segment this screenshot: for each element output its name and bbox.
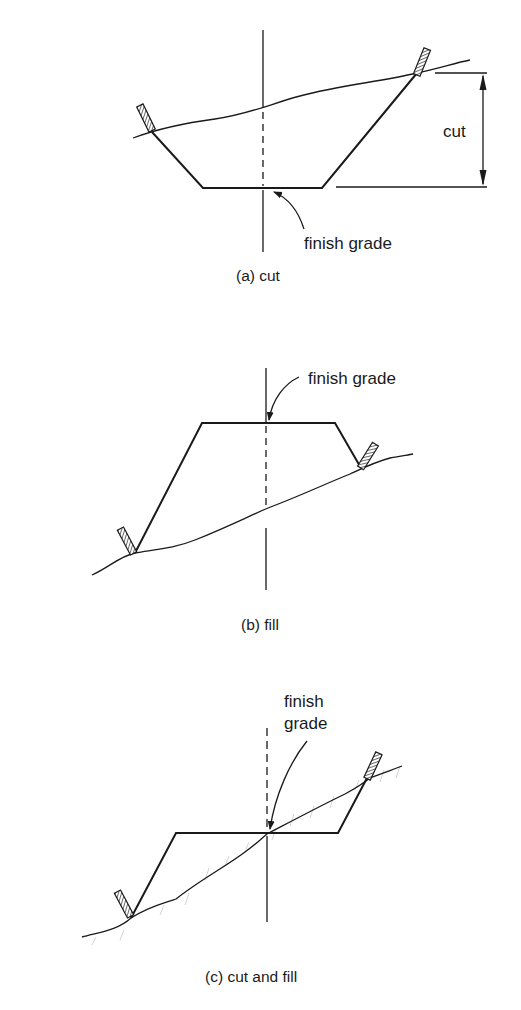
earthwork-cross-sections-figure: cut finish grade (a) cut finish grade (b…: [0, 0, 521, 1010]
slope-stake-icon: [137, 104, 156, 132]
leader-arrow-icon: [274, 192, 304, 229]
cut-fill-section-outline: [131, 778, 367, 918]
slope-stake-icon: [364, 752, 382, 780]
finish-grade-label: finish grade: [308, 369, 396, 388]
finish-grade-label-line1: finish: [284, 692, 324, 711]
leader-arrow-icon: [269, 377, 299, 420]
ground-hatching: [92, 766, 400, 945]
slope-stake-icon: [114, 890, 133, 918]
natural-ground-line: [92, 454, 413, 575]
cut-dimension-label: cut: [443, 122, 466, 141]
panel-c-cut-and-fill: finish grade (c) cut and fill: [82, 692, 402, 985]
finish-grade-label: finish grade: [304, 234, 392, 253]
fill-section-outline: [135, 423, 361, 553]
arrow-up-icon: [480, 74, 487, 90]
slope-stake-icon: [117, 527, 136, 555]
finish-grade-label-line2: grade: [284, 714, 327, 733]
slope-stake-icon: [414, 48, 431, 77]
panel-b-fill: finish grade (b) fill: [92, 368, 413, 633]
panel-a-cut: cut finish grade (a) cut: [133, 30, 487, 284]
cut-section-outline: [152, 73, 417, 188]
panel-caption: (b) fill: [241, 616, 279, 633]
panel-caption: (c) cut and fill: [205, 968, 297, 985]
arrow-down-icon: [480, 170, 487, 186]
panel-caption: (a) cut: [236, 267, 281, 284]
